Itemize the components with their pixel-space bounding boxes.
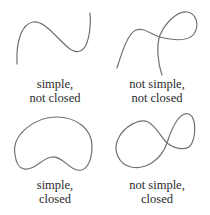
label-simple-not-closed: simple, not closed	[5, 77, 105, 105]
label-line-1: simple,	[5, 77, 105, 91]
label-not-simple-not-closed: not simple, not closed	[107, 77, 207, 105]
label-not-simple-closed: not simple, closed	[107, 178, 207, 206]
label-line-1: not simple,	[107, 178, 207, 192]
label-line-1: simple,	[5, 178, 105, 192]
label-line-2: closed	[5, 192, 105, 206]
label-line-2: not closed	[5, 91, 105, 105]
label-line-1: not simple,	[107, 77, 207, 91]
curve-simple-closed	[15, 117, 92, 170]
label-line-2: closed	[107, 192, 207, 206]
curve-not-simple-closed	[116, 114, 195, 168]
label-line-2: not closed	[107, 91, 207, 105]
label-simple-closed: simple, closed	[5, 178, 105, 206]
curve-simple-not-closed	[17, 13, 90, 64]
curve-not-simple-not-closed	[117, 12, 197, 75]
